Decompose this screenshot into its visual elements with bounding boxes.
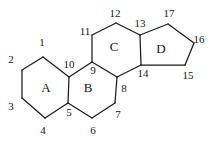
steroid-skeleton-svg: ABCD 1234567891011121314151617 [0,0,213,148]
bond-3-4 [22,98,45,118]
atom-6-label: 6 [90,124,96,136]
bond-7-8 [115,77,117,103]
bond-16-15 [185,43,194,65]
bond-13-14 [140,35,141,65]
ring-b-label: B [84,80,93,95]
bond-group [22,23,194,118]
bond-4-5 [45,103,68,118]
atom-9-label: 9 [90,64,96,76]
ring-d-label: D [156,41,165,56]
bond-17-16 [168,24,194,43]
atom-13-label: 13 [135,17,147,29]
atom-12-label: 12 [110,7,121,19]
bond-1-2 [22,57,43,70]
atom-1-label: 1 [39,36,45,48]
atom-14-label: 14 [138,67,150,79]
atom-4-label: 4 [40,124,46,136]
atom-16-label: 16 [194,33,206,45]
atom-15-label: 15 [183,69,195,81]
atom-8-label: 8 [121,82,127,94]
atom-5-label: 5 [66,106,72,118]
ring-a-label: A [41,80,51,95]
atom-10-label: 10 [64,58,76,70]
ring-c-label: C [110,39,119,54]
bond-6-7 [92,103,115,118]
atom-2-label: 2 [8,53,14,65]
atom-17-label: 17 [164,7,176,19]
atom-7-label: 7 [115,108,121,120]
bond-5-10 [68,77,69,103]
bond-8-9 [92,62,117,77]
steroid-structure-diagram: ABCD 1234567891011121314151617 [0,0,213,148]
bond-11-12 [92,23,116,35]
atom-3-label: 3 [8,100,14,112]
atom-11-label: 11 [80,25,91,37]
